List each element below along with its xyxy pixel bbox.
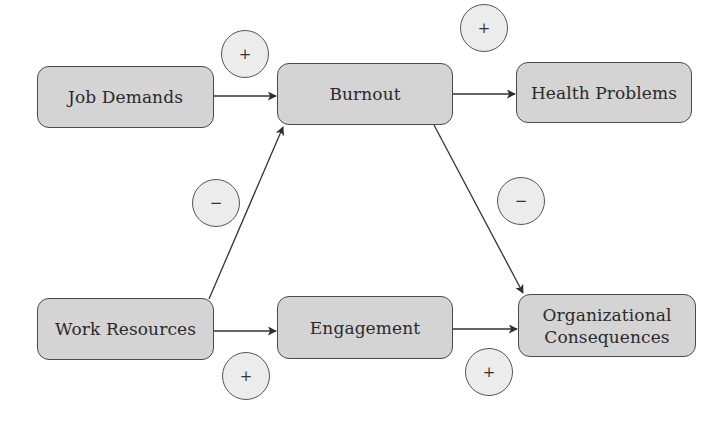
plus-icon: + [240, 369, 253, 384]
sign-minus-resources-burnout: − [192, 179, 240, 227]
node-label: Work Resources [55, 318, 196, 340]
sign-plus-engagement-org: + [465, 348, 513, 396]
node-organizational-consequences: Organizational Consequences [518, 294, 696, 357]
sign-plus-job-demands-burnout: + [221, 30, 269, 78]
plus-icon: + [483, 365, 496, 380]
node-label-line1: Organizational [543, 304, 672, 326]
minus-icon: − [210, 196, 223, 211]
node-job-demands: Job Demands [37, 66, 214, 128]
node-health-problems: Health Problems [516, 62, 692, 123]
node-label: Burnout [329, 83, 400, 105]
node-label: Health Problems [531, 82, 677, 104]
diagram-canvas: Job Demands Burnout Health Problems Work… [0, 0, 727, 423]
node-label: Job Demands [68, 86, 183, 108]
sign-plus-resources-engagement: + [222, 352, 270, 400]
node-label: Engagement [310, 317, 420, 339]
node-engagement: Engagement [277, 296, 453, 359]
plus-icon: + [239, 47, 252, 62]
plus-icon: + [478, 21, 491, 36]
sign-minus-burnout-org: − [497, 177, 545, 225]
node-work-resources: Work Resources [37, 298, 214, 360]
sign-plus-burnout-health: + [460, 4, 508, 52]
node-label-line2: Consequences [544, 326, 669, 348]
node-burnout: Burnout [277, 63, 453, 125]
minus-icon: − [515, 194, 528, 209]
